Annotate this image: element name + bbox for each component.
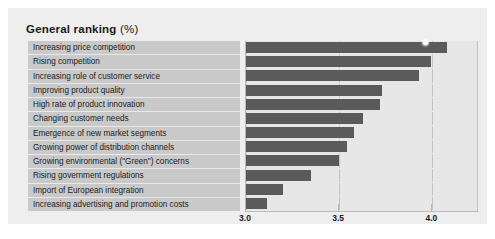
category-label-text: Growing environmental ("Green") concerns xyxy=(33,157,189,166)
bar-row xyxy=(246,41,477,55)
figure-panel: General ranking (%) Increasing price com… xyxy=(8,8,487,224)
category-label-text: Increasing price competition xyxy=(33,43,135,52)
x-axis-tick xyxy=(431,204,432,212)
category-label-text: Growing power of distribution channels xyxy=(33,143,174,152)
bar-row xyxy=(246,197,477,211)
category-label-row: Increasing advertising and promotion cos… xyxy=(28,198,240,211)
category-label-row: High rate of product innovation xyxy=(28,98,240,112)
bar-series xyxy=(246,41,477,211)
category-label-row: Increasing price competition xyxy=(28,41,240,55)
x-axis-tick xyxy=(338,204,339,212)
category-label-row: Rising competition xyxy=(28,55,240,69)
category-label-row: Import of European integration xyxy=(28,184,240,198)
category-label-text: Increasing advertising and promotion cos… xyxy=(33,200,189,209)
bar xyxy=(246,56,431,67)
bar xyxy=(246,85,382,96)
bar xyxy=(246,155,339,166)
bar xyxy=(246,198,267,209)
category-label-row: Emergence of new market segments xyxy=(28,127,240,141)
bar xyxy=(246,99,380,110)
category-label-row: Improving product quality xyxy=(28,84,240,98)
x-axis-line xyxy=(245,211,479,212)
bar-row xyxy=(246,112,477,126)
category-label-row: Growing environmental ("Green") concerns xyxy=(28,155,240,169)
bar-row xyxy=(246,183,477,197)
category-label-row: Increasing role of customer service xyxy=(28,70,240,84)
x-axis-tick-label: 3.0 xyxy=(239,213,251,223)
category-label-text: High rate of product innovation xyxy=(33,100,145,109)
page-title: General ranking (%) xyxy=(26,23,138,35)
bar-row xyxy=(246,126,477,140)
category-label-row: Growing power of distribution channels xyxy=(28,141,240,155)
bar-row xyxy=(246,98,477,112)
data-point-marker xyxy=(423,40,428,45)
bar xyxy=(246,70,419,81)
x-axis-tick xyxy=(245,204,246,212)
category-label-text: Changing customer needs xyxy=(33,114,129,123)
bar xyxy=(246,127,354,138)
category-label-row: Changing customer needs xyxy=(28,112,240,126)
bar xyxy=(246,170,311,181)
category-label-text: Improving product quality xyxy=(33,86,124,95)
bar-row xyxy=(246,55,477,69)
x-axis-tick-label: 3.5 xyxy=(332,213,344,223)
category-label-text: Increasing role of customer service xyxy=(33,72,160,81)
category-label-text: Rising competition xyxy=(33,57,100,66)
x-axis-tick-label: 4.0 xyxy=(425,213,437,223)
bar-row xyxy=(246,154,477,168)
category-label-row: Rising government regulations xyxy=(28,169,240,183)
chart-title-main: General ranking xyxy=(26,23,117,35)
bar xyxy=(246,42,447,53)
category-label-panel: Increasing price competitionRising compe… xyxy=(28,41,240,211)
chart-screenshot: General ranking (%) Increasing price com… xyxy=(0,0,495,239)
category-label-text: Emergence of new market segments xyxy=(33,129,166,138)
plot-area xyxy=(245,41,478,211)
category-label-text: Import of European integration xyxy=(33,186,144,195)
bar-row xyxy=(246,84,477,98)
bar xyxy=(246,113,363,124)
bar-row xyxy=(246,69,477,83)
bar xyxy=(246,141,347,152)
category-label-text: Rising government regulations xyxy=(33,171,144,180)
chart-title-unit: (%) xyxy=(120,23,139,35)
bar xyxy=(246,184,283,195)
bar-row xyxy=(246,140,477,154)
bar-row xyxy=(246,169,477,183)
